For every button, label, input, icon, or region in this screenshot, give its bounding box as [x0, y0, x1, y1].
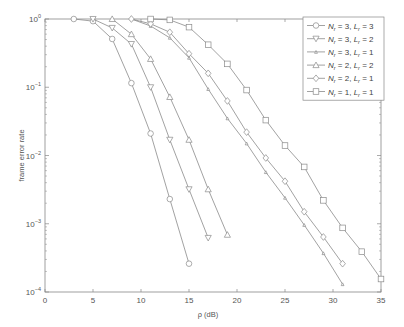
triangle-down-marker-icon [186, 187, 192, 193]
x-tick-label: 0 [43, 296, 48, 305]
square-marker-icon [148, 16, 154, 22]
x-tick-label: 30 [329, 296, 338, 305]
square-marker-icon [263, 117, 269, 123]
triangle-down-marker-icon [205, 235, 211, 241]
y-tick-label: 100 [29, 13, 41, 24]
legend-label: Nr = 2, Lr = 1 [328, 74, 374, 84]
y-tick-label: 10−2 [26, 150, 41, 161]
legend-label: Nr = 2, Lr = 2 [328, 61, 374, 71]
series-line [74, 19, 189, 264]
x-axis-label: ρ (dB) [198, 310, 219, 319]
triangle-up-marker-icon [205, 186, 211, 192]
legend-label: Nr = 3, Lr = 3 [328, 22, 374, 32]
x-tick-label: 20 [233, 296, 242, 305]
square-marker-icon [321, 198, 327, 204]
x-tick-label: 5 [91, 296, 96, 305]
circle-marker-icon [148, 131, 154, 137]
square-marker-icon [167, 17, 173, 23]
y-tick-label: 10−3 [26, 218, 41, 229]
series-1 [71, 16, 192, 266]
legend-label: Nr = 3, Lr = 2 [328, 35, 374, 45]
y-axis-label: frame error rate [17, 129, 26, 181]
y-tick-label: 10−4 [26, 286, 41, 297]
square-marker-icon [301, 164, 307, 170]
x-tick-label: 25 [281, 296, 290, 305]
triangle-down-marker-icon [128, 41, 134, 47]
legend-label: Nr = 3, Lr = 1 [328, 48, 374, 58]
diamond-marker-icon [129, 16, 135, 23]
square-marker-icon [340, 225, 346, 231]
chart-figure: ρ (dB) frame error rate 0510152025303510… [0, 0, 404, 327]
circle-marker-icon [129, 80, 135, 86]
legend-label: Nr = 1, Lr = 1 [328, 88, 374, 98]
x-tick-label: 15 [185, 296, 194, 305]
circle-legend-icon [313, 23, 319, 29]
triangle-up-marker-icon [128, 31, 134, 37]
circle-marker-icon [109, 36, 115, 42]
square-marker-icon [378, 276, 384, 282]
series-line [93, 19, 208, 238]
triangle-down-marker-icon [167, 137, 173, 143]
square-marker-icon [244, 87, 250, 93]
triangle-down-marker-icon [148, 85, 154, 91]
square-marker-icon [186, 24, 192, 30]
triangle-up-marker-icon [186, 137, 192, 143]
series-2 [90, 16, 211, 241]
legend: Nr = 3, Lr = 3Nr = 3, Lr = 2Nr = 3, Lr =… [303, 17, 384, 100]
square-legend-icon [313, 89, 319, 95]
square-marker-icon [205, 42, 211, 48]
series-line [112, 19, 227, 235]
circle-marker-icon [167, 196, 173, 202]
square-marker-icon [282, 143, 288, 149]
triangle-up-marker-icon [167, 94, 173, 100]
x-tick-label: 10 [137, 296, 146, 305]
circle-marker-icon [186, 261, 192, 267]
x-tick-label: 35 [377, 296, 386, 305]
square-marker-icon [225, 61, 231, 67]
triangle-up-marker-icon [224, 232, 230, 238]
fer-chart: 0510152025303510010−110−210−310−4ρ (dB)f… [0, 0, 404, 327]
circle-marker-icon [71, 16, 77, 22]
square-marker-icon [359, 249, 365, 255]
y-tick-label: 10−1 [26, 81, 41, 92]
